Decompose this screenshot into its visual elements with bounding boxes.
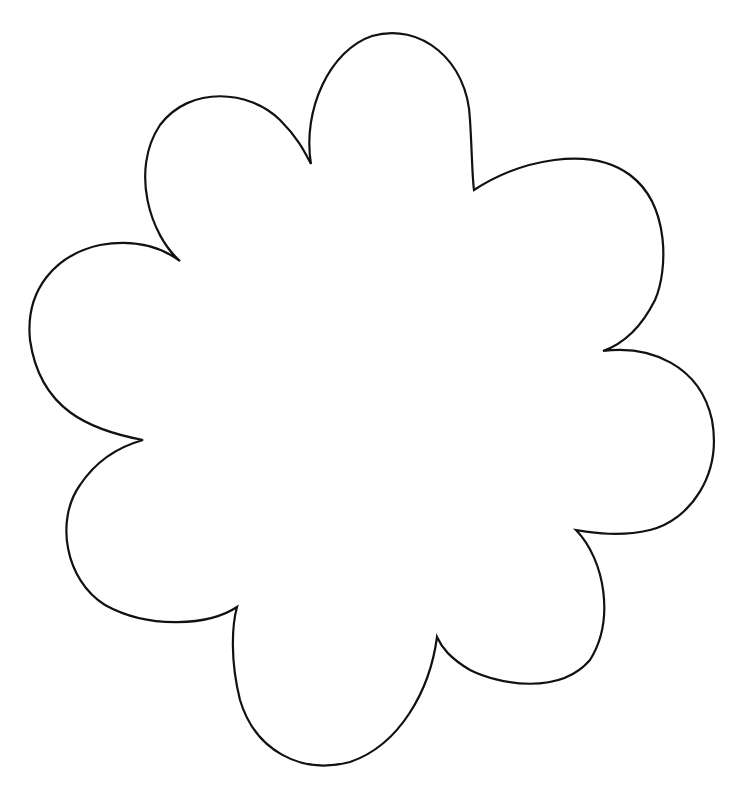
flower-outline-path <box>29 33 713 765</box>
flower-outline-drawing <box>0 0 734 796</box>
drawing-canvas <box>0 0 734 796</box>
